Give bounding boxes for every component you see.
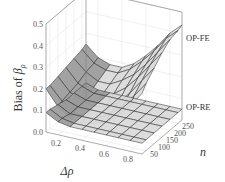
series-label-op-re: OP-RE <box>186 102 211 112</box>
x-tick-label: 0.6 <box>99 150 109 159</box>
z-tick-label: 0.0 <box>33 128 43 137</box>
y-tick-label: 50 <box>150 150 158 159</box>
axis-edge <box>86 0 182 12</box>
y-axis-label: n <box>200 145 206 159</box>
x-tick-label: 0.4 <box>75 144 85 153</box>
surfaces <box>46 25 182 143</box>
y-tick-label: 250 <box>182 122 194 131</box>
op-fe-surface-facet <box>166 25 182 39</box>
x-axis-label: Δρ <box>60 164 74 178</box>
surface-chart: 0.00.10.20.30.40.50.20.40.60.85010015020… <box>0 0 225 182</box>
z-tick-label: 0.4 <box>33 42 43 51</box>
grid-line-z <box>46 0 182 24</box>
z-tick-label: 0.5 <box>33 20 43 29</box>
grid-line-z <box>46 12 182 46</box>
z-tick-label: 0.2 <box>33 85 43 94</box>
x-tick-label: 0.2 <box>51 139 61 148</box>
x-tick-label: 0.8 <box>123 155 133 164</box>
z-tick-label: 0.3 <box>33 63 43 72</box>
series-label-op-fe: OP-FE <box>186 33 210 43</box>
z-tick-label: 0.1 <box>33 106 43 115</box>
z-axis-label: Bias of βρ <box>11 64 27 111</box>
